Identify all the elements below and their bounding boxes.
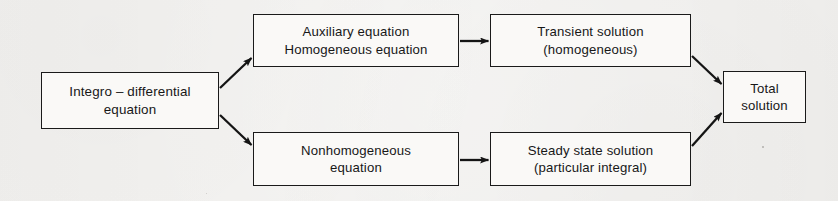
node-label-line1: Steady state solution bbox=[528, 142, 654, 159]
node-label-line1: Nonhomogeneous bbox=[301, 142, 411, 159]
node-label-line2: Homogeneous equation bbox=[284, 41, 427, 58]
node-label-line2: equation bbox=[104, 101, 157, 118]
node-label-line2: solution bbox=[741, 97, 788, 114]
flowchart-canvas: Integro – differential equation Auxiliar… bbox=[0, 0, 838, 201]
node-transient-solution: Transient solution (homogeneous) bbox=[490, 14, 691, 67]
node-label-line1: Total bbox=[750, 80, 779, 97]
edge-integro-to-auxiliary bbox=[220, 58, 252, 88]
node-nonhomogeneous-equation: Nonhomogeneous equation bbox=[253, 132, 459, 186]
edge-transient-to-total bbox=[692, 56, 722, 84]
node-integro-differential-equation: Integro – differential equation bbox=[41, 72, 219, 129]
node-total-solution: Total solution bbox=[723, 71, 806, 123]
edge-steady-to-total bbox=[692, 113, 722, 146]
node-label-line1: Transient solution bbox=[537, 23, 643, 40]
node-auxiliary-equation: Auxiliary equation Homogeneous equation bbox=[253, 14, 459, 67]
node-label-line1: Auxiliary equation bbox=[303, 23, 410, 40]
node-label-line2: equation bbox=[330, 159, 382, 176]
node-label-line2: (homogeneous) bbox=[543, 41, 637, 58]
node-steady-state-solution: Steady state solution (particular integr… bbox=[490, 132, 691, 186]
node-label-line1: Integro – differential bbox=[69, 83, 190, 100]
node-label-line2: (particular integral) bbox=[534, 159, 647, 176]
edge-integro-to-nonhomogeneous bbox=[220, 115, 252, 145]
